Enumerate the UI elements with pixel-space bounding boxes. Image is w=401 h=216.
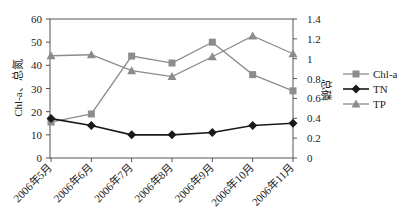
diamond-marker-icon — [168, 130, 177, 139]
left-axis-tick-label: 0 — [37, 152, 43, 164]
triangle-marker-icon — [127, 66, 136, 74]
right-axis-tick-label: 1 — [307, 53, 313, 65]
left-axis-tick-label: 10 — [31, 129, 43, 141]
legend-label-chl-a: Chl-a — [373, 68, 398, 80]
diamond-marker-icon — [208, 128, 217, 137]
x-axis-category-label: 2006年11月 — [249, 160, 297, 208]
right-axis-tick-label: 0.4 — [307, 112, 321, 124]
right-axis-tick-label: 1.4 — [307, 13, 321, 25]
left-axis-tick-label: 30 — [31, 83, 43, 95]
diamond-marker-icon — [248, 121, 257, 130]
x-axis-category-label: 2006年6月 — [51, 160, 95, 204]
diamond-marker-icon — [127, 130, 136, 139]
series-tn — [47, 114, 298, 139]
series-line — [51, 36, 293, 77]
square-marker-icon — [249, 71, 256, 78]
legend-label-tn: TN — [373, 83, 388, 95]
left-axis-tick-label: 40 — [31, 59, 43, 71]
diamond-marker-icon — [87, 121, 96, 130]
diamond-marker-icon — [352, 85, 361, 94]
right-axis-tick-label: 0 — [307, 152, 313, 164]
x-axis-category-label: 2006年9月 — [172, 160, 216, 204]
left-axis-tick-label: 60 — [31, 13, 43, 25]
left-axis-tick-label: 20 — [31, 106, 43, 118]
right-axis-tick-label: 0.6 — [307, 92, 321, 104]
series-line — [51, 42, 293, 122]
legend: Chl-aTNTP — [343, 68, 398, 110]
dual-axis-line-chart: 010203040506000.20.40.60.811.21.42006年5月… — [0, 0, 401, 216]
x-axis-category-label: 2006年5月 — [10, 160, 54, 204]
series-chl-a — [48, 39, 297, 126]
triangle-marker-icon — [289, 49, 298, 57]
x-axis-category-label: 2006年8月 — [131, 160, 175, 204]
right-axis-tick-label: 1.2 — [307, 33, 321, 45]
diamond-marker-icon — [289, 119, 298, 128]
triangle-marker-icon — [248, 31, 257, 39]
square-marker-icon — [128, 53, 135, 60]
series-tp — [47, 31, 298, 80]
square-marker-icon — [353, 71, 360, 78]
x-axis-category-label: 2006年10月 — [208, 160, 256, 208]
square-marker-icon — [290, 87, 297, 94]
legend-label-tp: TP — [373, 98, 386, 110]
square-marker-icon — [88, 110, 95, 117]
square-marker-icon — [209, 39, 216, 46]
x-axis-category-label: 2006年7月 — [91, 160, 135, 204]
right-axis-tick-label: 0.8 — [307, 73, 321, 85]
right-axis-title: 总磷 — [320, 79, 333, 101]
left-axis-tick-label: 50 — [31, 36, 43, 48]
square-marker-icon — [169, 60, 176, 67]
left-axis-title: Chl-a、总氮 — [11, 59, 24, 116]
right-axis-tick-label: 0.2 — [307, 132, 321, 144]
triangle-marker-icon — [208, 52, 217, 60]
